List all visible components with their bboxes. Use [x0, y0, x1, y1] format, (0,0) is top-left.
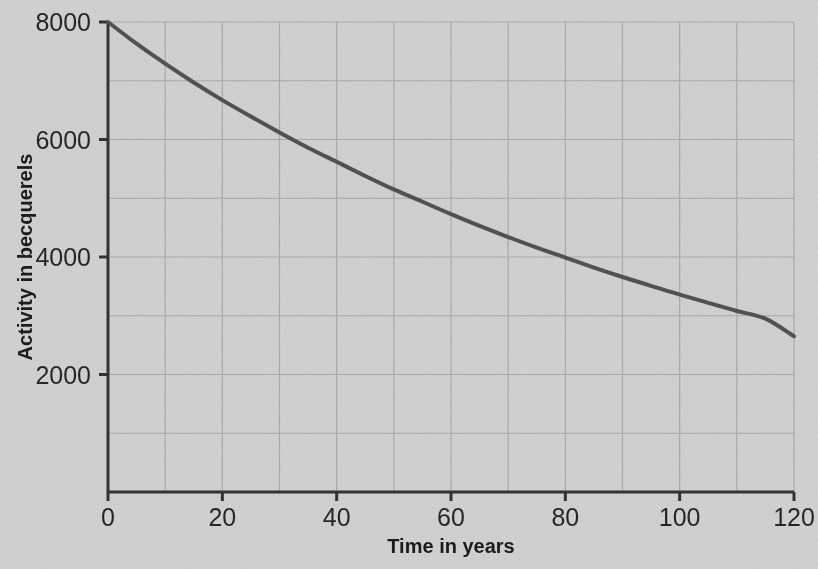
x-tick-label: 80: [551, 503, 579, 531]
y-tick-label: 6000: [35, 126, 91, 154]
y-tick-label: 2000: [35, 361, 91, 389]
x-tick-labels: 020406080100120: [101, 503, 815, 531]
y-tick-label: 4000: [35, 243, 91, 271]
y-tick-labels: 2000400060008000: [35, 8, 91, 389]
x-tick-label: 120: [773, 503, 815, 531]
x-tick-label: 60: [437, 503, 465, 531]
y-axis-title: Activity in becquerels: [14, 154, 36, 361]
x-tick-label: 40: [323, 503, 351, 531]
y-tick-label: 8000: [35, 8, 91, 36]
axis-ticks: [99, 22, 794, 501]
x-axis-title: Time in years: [387, 535, 514, 557]
chart-page: 020406080100120 2000400060008000 Time in…: [0, 0, 818, 569]
activity-decay-chart: 020406080100120 2000400060008000 Time in…: [0, 0, 818, 569]
x-tick-label: 100: [659, 503, 701, 531]
x-tick-label: 0: [101, 503, 115, 531]
x-tick-label: 20: [208, 503, 236, 531]
